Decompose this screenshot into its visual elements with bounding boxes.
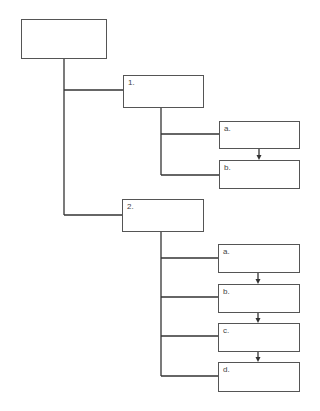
branch-1b-box: b.	[219, 160, 300, 189]
branch-1a-box: a.	[219, 121, 300, 149]
branch-2c-label: c.	[223, 326, 229, 335]
branch-2d-box: d.	[218, 362, 300, 392]
branch-2-box: 2.	[122, 199, 204, 232]
branch-2b-box: b.	[218, 284, 300, 313]
branch-1-label: 1.	[128, 78, 135, 87]
root-box	[21, 19, 107, 59]
branch-2b-label: b.	[223, 287, 230, 296]
branch-2-label: 2.	[127, 202, 134, 211]
branch-2a-box: a.	[218, 244, 300, 273]
branch-2c-box: c.	[218, 323, 300, 352]
branch-1a-label: a.	[224, 124, 231, 133]
branch-1-box: 1.	[123, 75, 204, 108]
branch-2a-label: a.	[223, 247, 230, 256]
branch-2d-label: d.	[223, 365, 230, 374]
branch-1b-label: b.	[224, 163, 231, 172]
